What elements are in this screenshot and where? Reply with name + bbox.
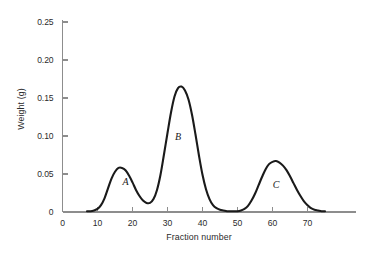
axis-tick-labels: 00.050.100.150.200.25010203040506070 (37, 17, 312, 227)
x-tick-label: 50 (233, 218, 243, 228)
y-tick-label: 0.20 (37, 55, 54, 65)
x-tick-label: 30 (163, 218, 173, 228)
peak-label-b: B (175, 131, 181, 142)
peak-label-a: A (121, 176, 129, 187)
x-axis-title: Fraction number (166, 232, 232, 242)
chromatogram-figure: 00.050.100.150.200.25010203040506070 ABC… (0, 0, 380, 253)
x-tick-label: 70 (303, 218, 313, 228)
chart-plot-area: 00.050.100.150.200.25010203040506070 ABC… (0, 0, 380, 253)
elution-curve (87, 86, 325, 211)
axes (63, 20, 356, 212)
y-tick-label: 0.15 (37, 93, 54, 103)
x-tick-label: 40 (198, 218, 208, 228)
x-tick-label: 0 (60, 218, 65, 228)
y-axis-title: Weight (g) (16, 88, 26, 129)
x-tick-label: 60 (268, 218, 278, 228)
y-tick-label: 0.25 (37, 17, 54, 27)
y-tick-label: 0.10 (37, 131, 54, 141)
y-tick-label: 0.05 (37, 169, 54, 179)
peak-label-c: C (273, 179, 280, 190)
axis-ticks (63, 22, 308, 212)
x-tick-label: 20 (128, 218, 138, 228)
x-tick-label: 10 (93, 218, 103, 228)
y-tick-label: 0 (49, 207, 54, 217)
data-curve (87, 86, 325, 211)
